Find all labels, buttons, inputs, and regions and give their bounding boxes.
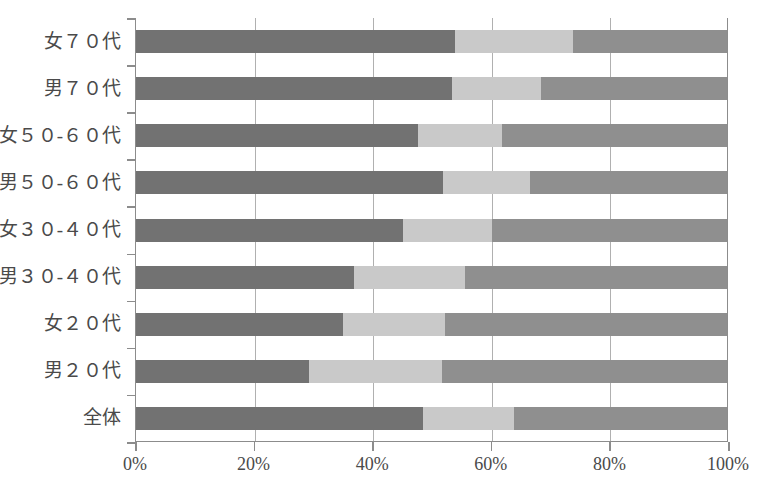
y-axis-tick <box>127 206 135 208</box>
bar-segment <box>514 407 727 430</box>
bar-row <box>136 313 727 336</box>
bar-segment <box>452 77 541 100</box>
x-axis-tick <box>728 442 730 451</box>
bars-layer <box>136 18 727 441</box>
y-axis-tick <box>127 442 135 444</box>
y-axis-label: 男３０-４０代 <box>0 267 121 286</box>
x-axis-label: 0% <box>123 455 147 473</box>
bar-segment <box>343 313 445 336</box>
bar-segment <box>492 219 727 242</box>
y-axis-tick <box>127 348 135 350</box>
bar-row <box>136 124 727 147</box>
y-axis-tick <box>127 159 135 161</box>
y-axis-label: 男５０-６０代 <box>0 173 121 192</box>
stacked-bar-chart: 女７０代男７０代女５０-６０代男５０-６０代女３０-４０代男３０-４０代女２０代… <box>0 0 761 503</box>
bar-row <box>136 171 727 194</box>
x-axis-tick <box>372 442 374 451</box>
bar-segment <box>445 313 727 336</box>
bar-row <box>136 407 727 430</box>
y-axis-tick <box>127 112 135 114</box>
bar-segment <box>136 266 354 289</box>
bar-segment <box>443 171 529 194</box>
bar-row <box>136 77 727 100</box>
y-axis-tick <box>127 395 135 397</box>
bar-row <box>136 360 727 383</box>
y-axis-label: 男７０代 <box>44 79 121 98</box>
bar-segment <box>136 407 423 430</box>
y-axis-label: 男２０代 <box>44 361 121 380</box>
bar-segment <box>136 313 343 336</box>
x-axis-tick <box>254 442 256 451</box>
x-axis-label: 40% <box>356 455 389 473</box>
bar-segment <box>136 360 309 383</box>
bar-segment <box>354 266 465 289</box>
bar-segment <box>423 407 514 430</box>
x-axis-ticks <box>135 442 728 452</box>
bar-segment <box>455 30 573 53</box>
y-axis-labels: 女７０代男７０代女５０-６０代男５０-６０代女３０-４０代男３０-４０代女２０代… <box>0 18 131 442</box>
bar-segment <box>136 77 452 100</box>
y-axis-tick <box>127 254 135 256</box>
y-axis-tick <box>127 301 135 303</box>
bar-segment <box>530 171 727 194</box>
y-axis-label: 女７０代 <box>44 32 121 51</box>
x-axis-labels: 0%20%40%60%80%100% <box>0 455 761 495</box>
bar-segment <box>502 124 727 147</box>
bar-segment <box>573 30 727 53</box>
y-axis-label: 女３０-４０代 <box>0 220 121 239</box>
bar-row <box>136 30 727 53</box>
x-axis-label: 100% <box>707 455 749 473</box>
bar-row <box>136 266 727 289</box>
bar-segment <box>418 124 503 147</box>
bar-segment <box>403 219 492 242</box>
bar-row <box>136 219 727 242</box>
x-axis-tick <box>491 442 493 451</box>
y-axis-tick <box>127 65 135 67</box>
x-axis-label: 20% <box>237 455 270 473</box>
y-axis-label: 女２０代 <box>44 314 121 333</box>
bar-segment <box>136 219 403 242</box>
bar-segment <box>442 360 727 383</box>
bar-segment <box>136 171 443 194</box>
x-axis-tick <box>135 442 137 451</box>
y-axis-label: 女５０-６０代 <box>0 126 121 145</box>
x-axis-tick <box>609 442 611 451</box>
bar-segment <box>136 124 418 147</box>
bar-segment <box>465 266 727 289</box>
bar-segment <box>136 30 455 53</box>
x-axis-label: 60% <box>474 455 507 473</box>
x-axis-label: 80% <box>593 455 626 473</box>
y-axis-tick <box>127 18 135 20</box>
bar-segment <box>541 77 727 100</box>
y-axis-label: 全体 <box>83 408 121 427</box>
plot-area <box>135 18 728 442</box>
bar-segment <box>309 360 443 383</box>
